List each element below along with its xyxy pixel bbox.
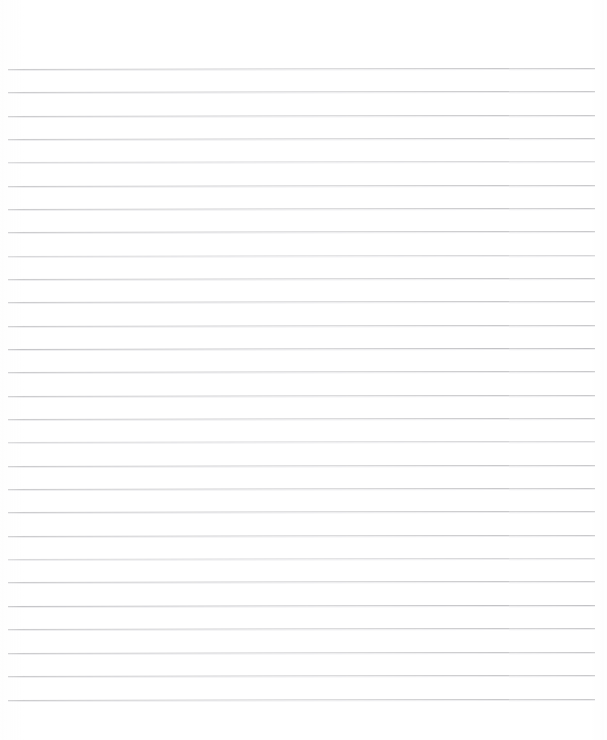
rule-line <box>8 535 595 537</box>
rule-line <box>8 395 595 397</box>
rule-line <box>8 68 595 70</box>
rule-line <box>8 325 595 327</box>
rule-line <box>8 371 595 373</box>
rule-line <box>8 161 595 163</box>
rule-line <box>8 675 595 677</box>
rule-line <box>8 278 595 280</box>
rule-line <box>8 699 595 701</box>
rule-line <box>8 208 595 210</box>
rule-line <box>8 301 595 303</box>
rule-line <box>8 488 595 490</box>
rule-line <box>8 91 595 93</box>
rule-line <box>8 418 595 420</box>
rule-line <box>8 605 595 607</box>
rule-line <box>8 628 595 630</box>
rule-line <box>8 558 595 560</box>
rule-line <box>8 348 595 350</box>
ruled-lines-layer <box>0 0 607 740</box>
rule-line <box>8 185 595 187</box>
rule-line <box>8 581 595 583</box>
rule-line <box>8 138 595 140</box>
rule-line <box>8 465 595 467</box>
rule-line <box>8 441 595 443</box>
lined-paper-page <box>0 0 607 740</box>
rule-line <box>8 652 595 654</box>
rule-line <box>8 511 595 513</box>
rule-line <box>8 255 595 257</box>
rule-line <box>8 115 595 117</box>
rule-line <box>8 231 595 233</box>
